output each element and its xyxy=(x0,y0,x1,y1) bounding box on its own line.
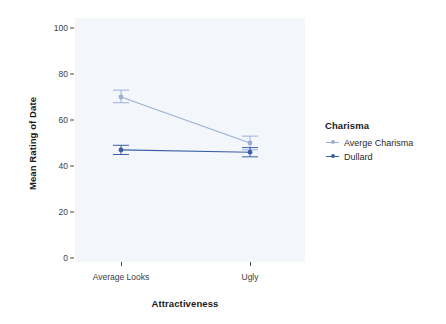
legend: Charisma Averge Charisma Dullard xyxy=(325,120,445,164)
legend-key-icon-dullard xyxy=(325,151,340,162)
series-line-1 xyxy=(121,150,250,152)
series-line-0 xyxy=(121,97,250,143)
legend-key-icon-averge-charisma xyxy=(325,137,340,148)
legend-label-averge-charisma: Averge Charisma xyxy=(344,138,413,148)
chart-container: Mean Rating of Date Attractiveness 100 8… xyxy=(0,0,446,324)
data-point-0-1 xyxy=(248,141,253,146)
legend-item-dullard[interactable]: Dullard xyxy=(325,150,445,163)
data-point-1-0 xyxy=(119,148,124,153)
data-point-0-0 xyxy=(119,95,124,100)
legend-label-dullard: Dullard xyxy=(344,152,373,162)
legend-title: Charisma xyxy=(325,120,445,131)
data-point-1-1 xyxy=(248,150,253,155)
legend-item-averge-charisma[interactable]: Averge Charisma xyxy=(325,136,445,149)
